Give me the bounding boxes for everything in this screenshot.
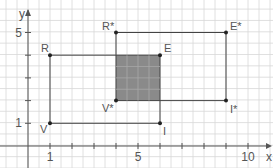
y-tick-label: 1 bbox=[15, 116, 22, 130]
x-axis-label: x bbox=[266, 150, 272, 164]
point-marker bbox=[48, 121, 52, 125]
point-marker bbox=[114, 31, 118, 35]
coordinate-diagram: 151015xy VIERV*I*E*R* bbox=[0, 0, 273, 168]
point-label: V* bbox=[102, 102, 114, 114]
y-tick-label: 5 bbox=[15, 26, 22, 40]
point-marker bbox=[114, 99, 118, 103]
point-label: R bbox=[41, 42, 49, 54]
point-label: E bbox=[164, 42, 171, 54]
point-marker bbox=[158, 53, 162, 57]
point-marker bbox=[224, 31, 228, 35]
point-label: V bbox=[40, 123, 48, 135]
point-label: I* bbox=[230, 103, 238, 115]
point-label: E* bbox=[230, 20, 242, 32]
point-label: I bbox=[163, 125, 166, 137]
point-marker bbox=[158, 121, 162, 125]
point-marker bbox=[224, 99, 228, 103]
y-axis-label: y bbox=[19, 7, 25, 21]
x-tick-label: 10 bbox=[241, 150, 255, 164]
point-label: R* bbox=[102, 20, 115, 32]
x-tick-label: 1 bbox=[47, 150, 54, 164]
x-tick-label: 5 bbox=[135, 150, 142, 164]
